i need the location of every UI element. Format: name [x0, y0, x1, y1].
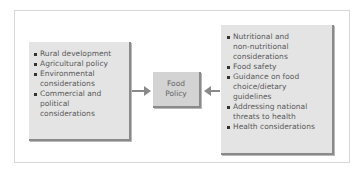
- influences-box-left: Rural development Agricultural policy En…: [29, 42, 131, 141]
- food-policy-label-line1: Food: [167, 79, 185, 89]
- list-item: Nutritional and non-nutritional consider…: [227, 32, 328, 62]
- list-item: Commercial and political considerations: [34, 89, 125, 119]
- list-item: Food safety: [227, 62, 328, 72]
- left-influences-list: Rural development Agricultural policy En…: [34, 49, 125, 119]
- list-item: Rural development: [34, 49, 125, 59]
- food-policy-box: Food Policy: [153, 72, 201, 108]
- bullet-icon: [34, 93, 37, 96]
- bullet-icon: [227, 106, 230, 109]
- list-item: Addressing national threats to health: [227, 102, 328, 122]
- bullet-icon: [227, 66, 230, 69]
- list-item: Environmental considerations: [34, 69, 125, 89]
- bullet-icon: [34, 63, 37, 66]
- influences-box-right: Nutritional and non-nutritional consider…: [221, 25, 334, 155]
- bullet-icon: [227, 76, 230, 79]
- arrow-right-icon: [132, 90, 146, 92]
- bullet-icon: [227, 126, 230, 129]
- list-item: Guidance on food choice/dietary guidelin…: [227, 72, 328, 102]
- list-item: Health considerations: [227, 122, 328, 132]
- food-policy-label-line2: Policy: [165, 89, 187, 99]
- bullet-icon: [34, 53, 37, 56]
- list-item: Agricultural policy: [34, 59, 125, 69]
- arrow-left-icon: [210, 90, 220, 92]
- right-influences-list: Nutritional and non-nutritional consider…: [227, 32, 328, 132]
- bullet-icon: [34, 73, 37, 76]
- bullet-icon: [227, 36, 230, 39]
